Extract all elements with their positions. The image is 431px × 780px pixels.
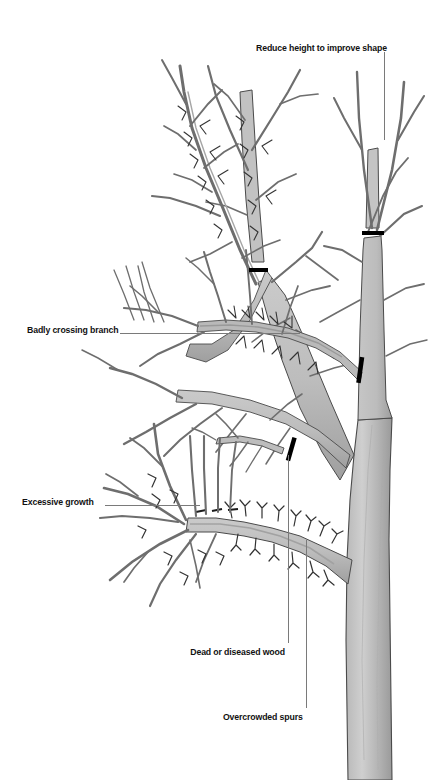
twig-ml-7 (124, 404, 196, 444)
spur (231, 534, 241, 551)
spur (291, 510, 301, 526)
upright-shoot-4 (230, 442, 236, 512)
watershoot-1 (142, 262, 164, 322)
tree-illustration (0, 0, 431, 780)
bud (262, 140, 272, 154)
bud (256, 308, 264, 320)
twig-ul-5 (174, 174, 212, 192)
right-leader-limb (358, 236, 392, 420)
bud (254, 340, 264, 352)
twig-ur-4 (380, 206, 422, 236)
spur (323, 570, 334, 586)
prune-mark-upper-right (362, 231, 384, 235)
bud (178, 106, 186, 120)
bud (218, 170, 228, 184)
twig-ur-1 (377, 82, 404, 230)
twig-ur-8 (386, 340, 427, 356)
spur (269, 544, 279, 561)
upright-shoot-3 (218, 438, 220, 512)
callout-label-reduce-height: Reduce height to improve shape (256, 43, 387, 53)
spur (240, 500, 250, 516)
twig-ul-7 (190, 242, 232, 262)
twig-ur-6 (384, 284, 424, 300)
spur (164, 552, 172, 565)
bud (210, 146, 220, 160)
spur (216, 552, 224, 565)
arch-shoot-7 (190, 540, 200, 588)
spur (180, 572, 188, 585)
upright-shoot-2 (204, 436, 206, 514)
spur (332, 529, 343, 543)
spur (319, 521, 330, 536)
twig-c-2 (252, 70, 300, 150)
twig-c-7 (286, 286, 330, 300)
twig-ml-3 (204, 252, 226, 322)
leader-reduce-height (384, 52, 385, 140)
callout-label-overcrowded-spurs: Overcrowded spurs (223, 712, 303, 722)
spur (148, 474, 156, 487)
twig-c-6b (306, 256, 338, 280)
arch-shoot-5 (196, 534, 216, 582)
spur (257, 502, 267, 518)
twig-ml-12 (82, 350, 118, 370)
twig-ul-2 (190, 90, 222, 126)
twig-ml-6 (110, 368, 182, 398)
upright-shoot-1 (190, 436, 196, 516)
mid-left-limb-group (82, 250, 362, 468)
spur (138, 526, 146, 538)
trunk-group (346, 418, 392, 780)
arch-shoot-3 (110, 530, 188, 580)
spur (308, 561, 319, 578)
twig-ml-1 (124, 308, 198, 326)
leader-badly-crossing-branch (120, 333, 300, 334)
callout-label-dead-or-diseased-wood: Dead or diseased wood (190, 647, 285, 657)
lower-lateral-limb (186, 518, 352, 584)
twig-ur-7 (320, 300, 360, 322)
twig-ur-5 (324, 246, 362, 262)
arch-shoot-6 (100, 516, 178, 522)
spur (306, 515, 316, 531)
spur (250, 538, 260, 555)
stub-mark (196, 510, 206, 512)
callout-label-excessive-growth: Excessive growth (22, 497, 94, 507)
bud (214, 224, 222, 238)
lower-lateral-group (100, 424, 352, 606)
watershoot-4 (114, 270, 134, 320)
bud (200, 120, 210, 134)
right-leader-stub (366, 148, 379, 228)
main-trunk (346, 418, 392, 780)
spur (274, 505, 284, 521)
spur (198, 550, 206, 563)
pruning-diagram-page: Reduce height to improve shape Badly cro… (0, 0, 431, 780)
twig-c-4 (256, 174, 296, 200)
bud (266, 190, 276, 204)
watershoot-3 (126, 266, 144, 320)
bud (228, 306, 236, 318)
leader-dead-or-diseased-wood (288, 455, 289, 643)
twig-ul-6 (152, 196, 220, 216)
twig-ml-9 (216, 414, 246, 452)
leader-excessive-growth (105, 505, 200, 506)
dead-wood-twig-1 (216, 414, 238, 438)
dead-wood-twig-3 (246, 446, 262, 472)
center-leader-stub (240, 90, 264, 262)
spur (288, 552, 299, 569)
callout-label-badly-crossing-branch: Badly crossing branch (27, 325, 118, 335)
prune-mark-center-leader (249, 268, 268, 272)
twig-ul-4 (204, 144, 238, 168)
leader-overcrowded-spurs (306, 540, 307, 708)
bud (190, 154, 198, 168)
